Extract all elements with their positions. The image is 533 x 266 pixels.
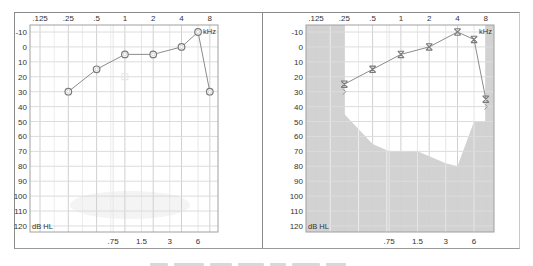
- x-tick-label-bottom: 3: [444, 237, 449, 246]
- faint-shade: [70, 191, 190, 219]
- y-tick-label: 20: [294, 73, 303, 82]
- x-tick-label: .5: [369, 14, 376, 23]
- y-tick-label: 30: [294, 88, 303, 97]
- y-tick-label: 80: [294, 162, 303, 171]
- threshold-line: [344, 32, 486, 99]
- x-tick-label: 1: [123, 14, 128, 23]
- y-tick-label: -10: [291, 28, 303, 37]
- x-tick-label: 4: [455, 14, 460, 23]
- y-tick-label: 20: [18, 73, 27, 82]
- x-tick-label: .125: [308, 14, 324, 23]
- x-tick-label: .25: [339, 14, 351, 23]
- x-tick-label: .125: [32, 14, 48, 23]
- circle-marker-icon: [178, 44, 185, 51]
- caption-blurred-text: [150, 255, 400, 261]
- circle-marker-icon: [195, 29, 202, 36]
- y-tick-label: 90: [294, 177, 303, 186]
- x-tick-label-bottom: 1.5: [412, 237, 424, 246]
- x-tick-label: .5: [93, 14, 100, 23]
- db-hl-unit-label: dB HL: [308, 222, 329, 231]
- x-tick-label: 4: [179, 14, 184, 23]
- x-tick-label-bottom: 1.5: [136, 237, 148, 246]
- x-tick-label-bottom: 3: [168, 237, 173, 246]
- x-tick-label-bottom: 6: [472, 237, 477, 246]
- left-ear-plot: .125.25.51248.751.536-100102030405060708…: [290, 14, 494, 246]
- y-tick-label: 40: [294, 103, 303, 112]
- y-tick-label: 70: [18, 147, 27, 156]
- x-tick-label-bottom: .75: [108, 237, 120, 246]
- y-tick-label: 100: [14, 192, 28, 201]
- right-ear-plot: .125.25.51248.751.536-100102030405060708…: [14, 14, 218, 246]
- x-tick-label: 2: [151, 14, 156, 23]
- y-tick-label: -10: [15, 28, 27, 37]
- y-tick-label: 110: [14, 207, 27, 216]
- x-tick-label: 2: [427, 14, 432, 23]
- circle-marker-icon: [122, 51, 129, 58]
- circle-marker-icon: [150, 51, 157, 58]
- y-tick-label: 40: [18, 103, 27, 112]
- y-tick-label: 60: [294, 132, 303, 141]
- x-tick-label: .25: [63, 14, 75, 23]
- circle-marker-icon: [207, 88, 214, 95]
- y-tick-label: 50: [294, 118, 303, 127]
- audiogram-charts: .125.25.51248.751.536-100102030405060708…: [0, 0, 533, 266]
- x-tick-label: 8: [484, 14, 489, 23]
- y-tick-label: 120: [290, 222, 304, 231]
- y-tick-label: 100: [290, 192, 304, 201]
- x-tick-label-bottom: .75: [384, 237, 396, 246]
- y-tick-label: 10: [18, 58, 27, 67]
- y-tick-label: 50: [18, 118, 27, 127]
- circle-marker-icon: [93, 66, 100, 73]
- y-tick-label: 30: [18, 88, 27, 97]
- x-tick-label: 8: [208, 14, 213, 23]
- x-tick-label: 1: [399, 14, 404, 23]
- db-hl-unit-label: dB HL: [32, 222, 53, 231]
- x-tick-label-bottom: 6: [196, 237, 201, 246]
- y-tick-label: 0: [23, 43, 28, 52]
- y-tick-label: 80: [18, 162, 27, 171]
- y-tick-label: 120: [14, 222, 28, 231]
- y-tick-label: 60: [18, 132, 27, 141]
- khz-unit-label: kHz: [479, 27, 492, 36]
- y-tick-label: 10: [294, 58, 303, 67]
- y-tick-label: 0: [299, 43, 304, 52]
- circle-marker-icon: [65, 88, 72, 95]
- y-tick-label: 90: [18, 177, 27, 186]
- khz-unit-label: kHz: [203, 27, 216, 36]
- y-tick-label: 110: [290, 207, 303, 216]
- y-tick-label: 70: [294, 147, 303, 156]
